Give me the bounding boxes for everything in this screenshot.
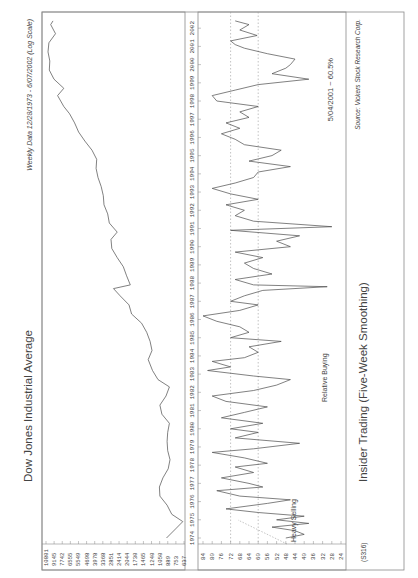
djia-panel-frame xyxy=(42,12,185,570)
insider-panel-frame xyxy=(198,12,346,570)
insider-y-tick: 32 xyxy=(320,553,327,560)
annotation-heavy-selling: Heavy Selling xyxy=(290,499,298,542)
year-tick: 1975 xyxy=(189,512,196,527)
outer-frame xyxy=(42,12,404,570)
insider-y-tick: 72 xyxy=(228,553,235,560)
djia-y-tick: 4698 xyxy=(84,553,91,566)
source-label: Source: Vickers Stock Research Corp. xyxy=(354,19,362,130)
year-tick: 1987 xyxy=(189,294,196,309)
djia-y-tick: 753 xyxy=(173,556,180,566)
year-tick: 1995 xyxy=(189,148,196,163)
chart-canvas: Dow Jones Industrial Average Weekly Data… xyxy=(0,0,418,578)
djia-y-tick: 9145 xyxy=(51,553,58,566)
chart-code: (S316) xyxy=(360,542,368,562)
djia-y-tick: 1730 xyxy=(132,552,139,566)
year-axis: 1974197519761977197819791980198119821983… xyxy=(189,21,201,546)
insider-y-tick: 80 xyxy=(209,553,216,560)
djia-y-tick: 889 xyxy=(165,556,172,566)
year-tick: 1985 xyxy=(189,330,196,345)
year-tick: 1996 xyxy=(189,130,196,145)
year-tick: 1997 xyxy=(189,112,196,127)
year-tick: 1999 xyxy=(189,75,196,90)
annotation-relative-buying: Relative Buying xyxy=(321,353,329,402)
insider-y-tick: 56 xyxy=(264,553,271,560)
insider-line xyxy=(203,21,332,538)
year-tick: 1977 xyxy=(189,476,196,491)
year-tick: 1988 xyxy=(189,275,196,290)
djia-line xyxy=(48,21,183,538)
insider-y-tick: 52 xyxy=(274,553,281,560)
insider-y-tick: 28 xyxy=(329,553,336,560)
year-tick: 2000 xyxy=(189,57,196,72)
year-tick: 2001 xyxy=(189,39,196,54)
insider-y-tick: 76 xyxy=(218,553,225,560)
djia-y-tick: 1050 xyxy=(157,552,164,566)
insider-y-axis: 84807672686460565248444036322824 xyxy=(198,541,346,560)
year-tick: 1993 xyxy=(189,184,196,199)
djia-y-tick: 5549 xyxy=(75,553,82,566)
year-tick: 1978 xyxy=(189,458,196,473)
year-tick: 1990 xyxy=(189,239,196,254)
year-tick: 1979 xyxy=(189,439,196,454)
insider-y-tick: 40 xyxy=(301,553,308,560)
rotated-chart-page: Dow Jones Industrial Average Weekly Data… xyxy=(0,0,418,578)
year-tick: 1984 xyxy=(189,348,196,363)
djia-y-tick: 637 xyxy=(181,556,188,566)
djia-y-tick: 2851 xyxy=(108,552,115,566)
year-tick: 1994 xyxy=(189,166,196,181)
insider-y-tick: 48 xyxy=(283,553,290,560)
insider-y-tick: 44 xyxy=(292,553,299,560)
date-range-label: Weekly Data 12/28/1973 - 6/07/2002 (Log … xyxy=(26,19,34,171)
djia-y-tick: 7742 xyxy=(59,553,66,566)
insider-y-tick: 60 xyxy=(255,553,262,560)
year-tick: 1974 xyxy=(189,530,196,545)
djia-y-tick: 1465 xyxy=(140,553,147,566)
insider-y-tick: 24 xyxy=(338,553,345,560)
insider-y-tick: 68 xyxy=(237,553,244,560)
year-tick: 1980 xyxy=(189,421,196,436)
year-tick: 1998 xyxy=(189,93,196,108)
year-tick: 1983 xyxy=(189,367,196,382)
djia-y-axis: 1080191457742655555494698397833682851241… xyxy=(42,541,188,566)
djia-y-tick: 2414 xyxy=(116,552,123,566)
year-tick: 2002 xyxy=(189,21,196,36)
insider-y-tick: 64 xyxy=(246,553,253,560)
year-tick: 1986 xyxy=(189,312,196,327)
insider-y-tick: 36 xyxy=(310,553,317,560)
insider-y-tick: 84 xyxy=(200,553,207,560)
djia-y-tick: 3978 xyxy=(92,553,99,566)
djia-y-tick: 6555 xyxy=(67,553,74,566)
djia-y-tick: 2044 xyxy=(124,552,131,566)
year-tick: 1982 xyxy=(189,385,196,400)
year-tick: 1991 xyxy=(189,221,196,236)
year-tick: 1992 xyxy=(189,203,196,218)
djia-y-tick: 10801 xyxy=(43,549,50,566)
heavy-selling-pointer xyxy=(238,520,287,544)
year-tick: 1976 xyxy=(189,494,196,509)
insider-title: Insider Trading (Five-Week Smoothing) xyxy=(357,282,369,482)
djia-y-tick: 1240 xyxy=(149,552,156,566)
annotation-latest-value: 5/04/2001 ~ 60.5% xyxy=(326,58,335,122)
djia-title: Dow Jones Industrial Average xyxy=(22,330,34,482)
djia-y-tick: 3368 xyxy=(100,553,107,566)
year-tick: 1989 xyxy=(189,257,196,272)
year-tick: 1981 xyxy=(189,403,196,418)
